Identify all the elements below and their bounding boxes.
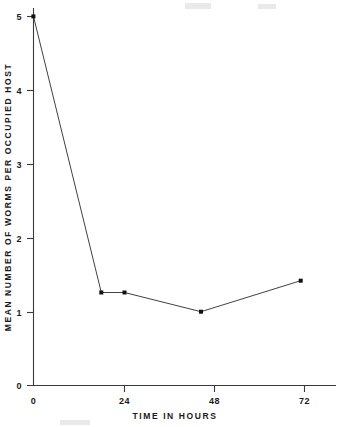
y-tick-marks (27, 17, 34, 313)
y-tick-label-4: 4 (16, 86, 22, 96)
x-tick-marks (125, 386, 305, 393)
data-point-44h (199, 310, 203, 314)
line-chart: 5 4 3 2 1 0 0 24 48 72 TIME IN HOURS MEA… (0, 0, 344, 427)
y-tick-label-2: 2 (16, 234, 22, 244)
x-tick-label-72: 72 (299, 396, 310, 406)
data-point-71h (299, 279, 303, 283)
data-point-0h (31, 14, 35, 18)
y-tick-label-3: 3 (16, 160, 22, 170)
x-tick-label-48: 48 (209, 396, 220, 406)
y-tick-label-5: 5 (16, 12, 22, 22)
y-axis-title: MEAN NUMBER OF WORMS PER OCCUPIED HOST (3, 63, 13, 332)
x-axis-title: TIME IN HOURS (132, 411, 217, 421)
y-tick-label-0: 0 (16, 381, 22, 391)
y-tick-label-1: 1 (16, 308, 22, 318)
data-point-markers (31, 14, 302, 313)
x-tick-label-0: 0 (31, 396, 37, 406)
data-series-line (34, 17, 301, 312)
scan-artifacts (60, 3, 276, 425)
data-point-18h (99, 291, 103, 295)
x-tick-label-24: 24 (119, 396, 130, 406)
data-point-24h (123, 291, 127, 295)
